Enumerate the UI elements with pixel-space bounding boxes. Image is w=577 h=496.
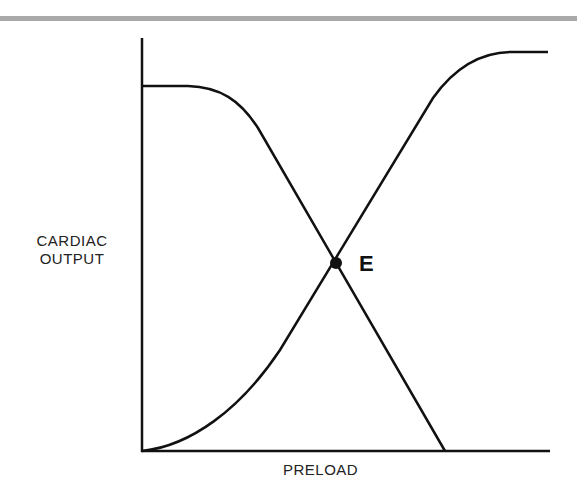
x-axis-label: PRELOAD — [283, 461, 358, 478]
y-axis-label-line1: CARDIAC — [22, 232, 122, 250]
ascending-curve — [142, 52, 548, 451]
y-axis-label-line2: OUTPUT — [22, 250, 122, 268]
y-axis-label: CARDIAC OUTPUT — [22, 232, 122, 268]
equilibrium-point — [330, 257, 342, 269]
equilibrium-label: E — [359, 251, 374, 277]
descending-curve — [142, 86, 445, 451]
